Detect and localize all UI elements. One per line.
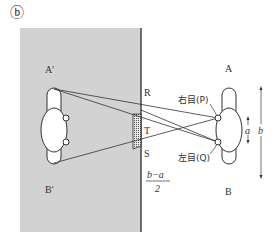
left-eye-leader — [210, 144, 217, 154]
label-dim-a: a — [245, 125, 250, 136]
right-eye-leader — [210, 104, 217, 116]
panel-label: ⓑ — [10, 5, 24, 20]
label-b-prime: B' — [45, 184, 54, 195]
label-left-eye: 左目(Q) — [178, 152, 210, 163]
left-eye-icon — [215, 139, 221, 145]
label-dim-b: b — [258, 125, 263, 136]
fraction-denominator: 2 — [155, 183, 160, 194]
hatched-mirror-segment — [133, 114, 141, 149]
fraction-numerator: b−a — [147, 169, 164, 180]
label-t: T — [144, 125, 150, 136]
label-a-top: A — [225, 63, 233, 74]
mirror-region — [20, 28, 141, 232]
label-s: S — [144, 148, 150, 159]
label-right-eye: 右目(P) — [178, 94, 208, 105]
real-person — [215, 88, 242, 164]
right-eye-icon — [215, 115, 221, 121]
label-a-prime: A' — [45, 64, 54, 75]
label-b-bottom: B — [225, 186, 232, 197]
label-r: R — [144, 87, 151, 98]
mirror-diagram: ⓑ A' B' R T S A B 右目(P) 左目(Q) a b b−a 2 — [0, 0, 279, 246]
